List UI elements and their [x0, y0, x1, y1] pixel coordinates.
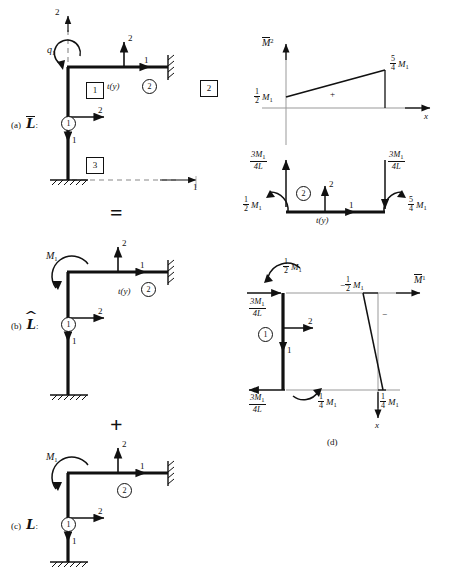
moment-subscript-b: 1 — [54, 255, 57, 262]
frac-num: 3M1 — [388, 150, 405, 161]
panel-a-tag: (a) — [11, 120, 21, 130]
frac-den: 4L — [249, 308, 266, 318]
frac-num: 3M1 — [249, 393, 266, 404]
element-marker-1-c[interactable]: 1 — [61, 517, 76, 532]
frac-num-sub: 1 — [262, 153, 265, 160]
m-var: M — [388, 397, 396, 407]
load-subscript: 1 — [52, 49, 55, 56]
moment-subscript-c: 1 — [54, 456, 57, 463]
m-sub: 1 — [334, 401, 337, 408]
figure-caption-d: (d) — [327, 438, 338, 447]
frac-num-sub: 1 — [261, 396, 264, 403]
fraction-one-quarter-moment-d-bottom: 14 — [318, 393, 324, 411]
element-marker-1-d[interactable]: 1 — [258, 327, 273, 342]
frac-num-text: 3M — [251, 149, 262, 159]
sign-region-positive: + — [330, 90, 335, 99]
panel-b-caption: (b) L: — [11, 318, 38, 331]
panel-c-graphics — [50, 448, 174, 567]
frac-num-sub: 1 — [400, 153, 403, 160]
moment-right-top-fbd: 54M1 — [408, 196, 427, 214]
element-marker-2-a[interactable]: 2 — [142, 79, 157, 94]
applied-load-q1-label: q1 — [47, 45, 55, 56]
frac-den: 4L — [250, 161, 267, 171]
panel-a-colon: : — [35, 120, 38, 130]
distributed-load-label-b: t(y) — [118, 287, 131, 296]
element-marker-1-a[interactable]: 1 — [61, 116, 76, 131]
panel-b-tag: (b) — [11, 321, 22, 331]
panel-b-colon: : — [36, 321, 39, 331]
frac-den: 2 — [243, 204, 249, 213]
moment-m1-label-b: M1 — [46, 251, 58, 262]
frac-den: 4 — [408, 204, 414, 213]
element-marker-1-b[interactable]: 1 — [61, 317, 76, 332]
frac-num: 5 — [390, 55, 396, 63]
m-var: M — [353, 280, 361, 290]
local-axis-vertical-label-d: 1 — [287, 346, 292, 355]
panel-a-symbol: L — [26, 117, 35, 130]
m-sub: 1 — [424, 204, 427, 211]
fraction-3m1-over-4l-d-top: 3M14L — [249, 297, 266, 318]
moment-top-d: 12M1 — [283, 258, 302, 276]
reaction-bottom-d: 3M14L — [249, 393, 266, 414]
joint-axis-label-top-horizontal-b: 1 — [140, 261, 145, 270]
frac-den: 4 — [318, 401, 324, 410]
panel-a-graphics — [50, 16, 196, 188]
node-marker-3-a[interactable]: 3 — [86, 157, 104, 174]
sign-region-negative-d: − — [382, 310, 387, 319]
m-sub: 1 — [299, 266, 302, 273]
joint-axis-label-mid-horizontal-a: 2 — [98, 106, 103, 115]
moment-value-top-d: −12M1 — [340, 276, 364, 294]
frac-den: 4L — [388, 161, 405, 171]
m-var: M — [291, 262, 299, 272]
frac-num-sub: 1 — [261, 300, 264, 307]
joint-axis-label-top-vertical-a: 2 — [128, 34, 133, 43]
m-var: M — [262, 92, 270, 102]
reaction-right-top: 3M14L — [388, 150, 405, 171]
frac-den: 4 — [380, 401, 386, 410]
fraction-five-fourths-moment-right: 54 — [408, 196, 414, 214]
joint-axis-label-top-vertical-b: 2 — [122, 239, 127, 248]
frac-num: 1 — [243, 196, 249, 204]
figure-root: 2 1 q1 t(y) 2 1 1 2 1 2 1 2 3 (a) L: = +… — [0, 0, 450, 579]
joint-axis-label-top-horizontal-c: 1 — [140, 462, 145, 471]
joint-axis-label-mid-vertical-b: 1 — [72, 337, 77, 346]
panel-a-caption: (a) L: — [11, 117, 38, 130]
global-axis-vertical-label-a: 2 — [55, 8, 60, 17]
fraction-3m1-over-4l-left: 3M14L — [250, 150, 267, 171]
panel-b-symbol: L — [27, 318, 36, 331]
operator-equals: = — [110, 200, 123, 226]
frac-den: 4L — [249, 404, 266, 414]
fraction-one-half-left: 12 — [254, 88, 260, 106]
m-symbol-d: M — [414, 275, 422, 285]
local-axis-vertical-label-top: 2 — [329, 180, 334, 189]
node-marker-1-a[interactable]: 1 — [86, 82, 104, 99]
m-var: M — [398, 59, 406, 69]
local-axis-horizontal-label-top: 1 — [349, 201, 354, 210]
frac-den: 2 — [283, 266, 289, 275]
fraction-one-quarter-d-bottom: 14 — [380, 393, 386, 411]
node-marker-2-a[interactable]: 2 — [200, 80, 218, 97]
m-var: M — [416, 200, 424, 210]
fraction-3m1-over-4l-right: 3M14L — [388, 150, 405, 171]
joint-axis-label-mid-horizontal-b: 2 — [98, 307, 103, 316]
frac-num-text: 3M — [250, 392, 261, 402]
element-marker-2-top[interactable]: 2 — [296, 186, 311, 201]
axis-x-label-top: x — [424, 112, 428, 121]
figure-vector-layer — [0, 0, 450, 579]
element-marker-2-b[interactable]: 2 — [141, 282, 156, 297]
fraction-five-fourths-right: 54 — [390, 55, 396, 73]
joint-axis-label-top-vertical-c: 2 — [122, 440, 127, 449]
moment-value-bottom-d: 14M1 — [380, 393, 399, 411]
frac-den: 2 — [345, 284, 351, 293]
frac-num: 1 — [318, 393, 324, 401]
distributed-load-label-a: t(y) — [107, 82, 120, 91]
m-superscript-top: 2 — [270, 37, 273, 44]
m-var: M — [251, 200, 259, 210]
m-sub: 1 — [259, 204, 262, 211]
frac-num: 1 — [283, 258, 289, 266]
m-symbol-top: M — [262, 38, 270, 48]
frac-num: 1 — [345, 276, 351, 284]
frac-num-text: 3M — [250, 296, 261, 306]
element-marker-2-c[interactable]: 2 — [117, 483, 132, 498]
local-axis-horizontal-label-d: 2 — [308, 317, 313, 326]
